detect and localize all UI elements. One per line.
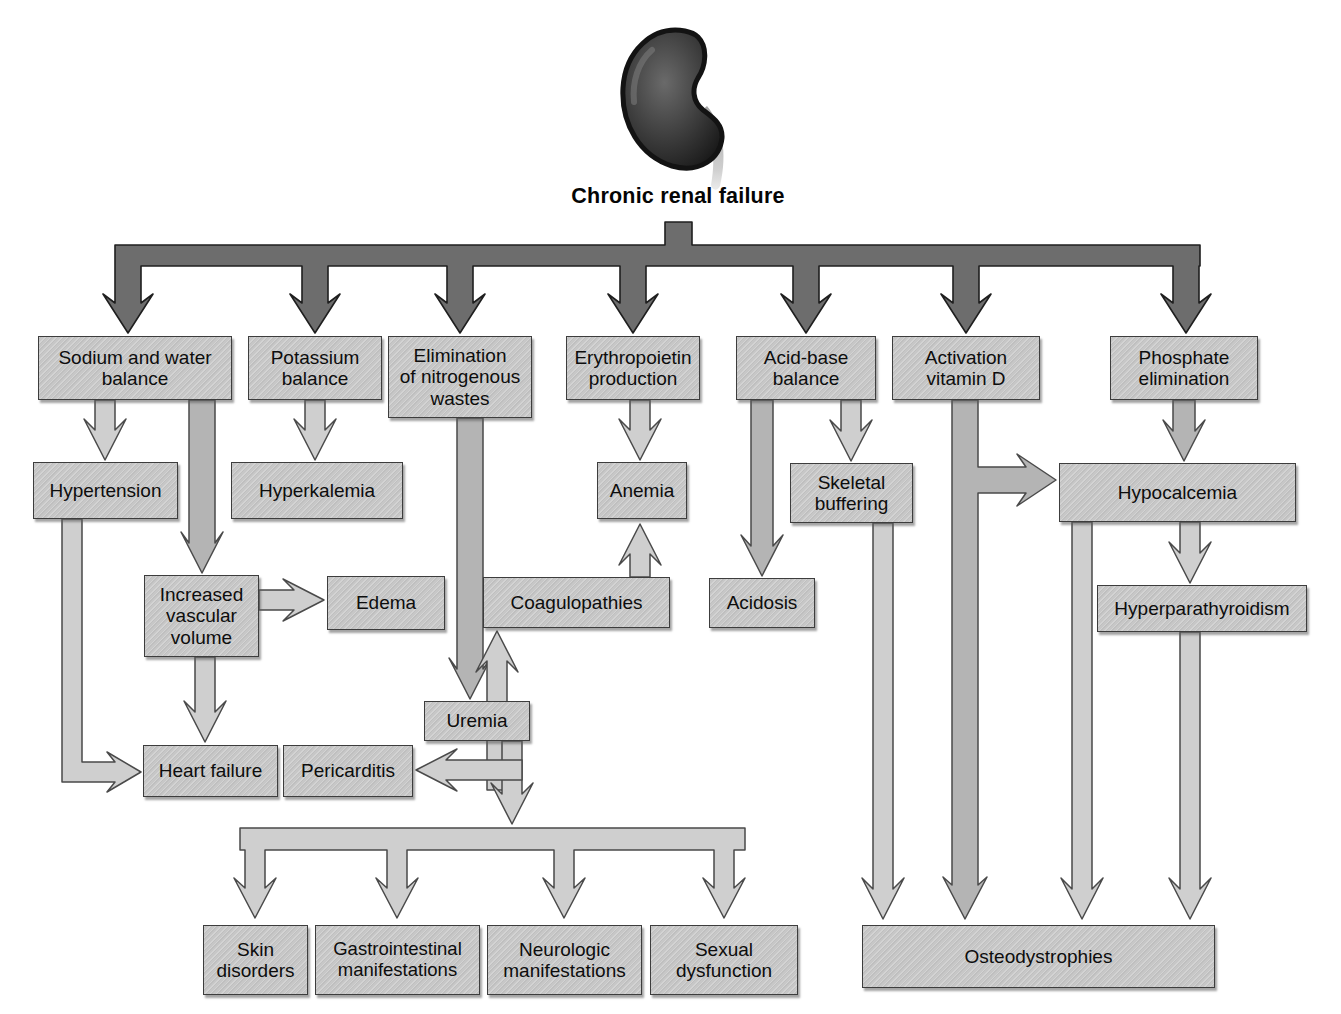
- node-sodium-water-balance: Sodium and water balance: [38, 336, 232, 400]
- node-hypocalcemia: Hypocalcemia: [1059, 463, 1296, 522]
- kidney-icon: [612, 24, 762, 194]
- node-skeletal-buffering: Skeletal buffering: [790, 463, 913, 523]
- node-pericarditis: Pericarditis: [283, 745, 413, 797]
- arrow-coagulopathies-to-anemia: [619, 524, 661, 577]
- arrow-ivv-to-edema: [259, 579, 324, 621]
- collector-to-bottom-boxes: [234, 828, 745, 918]
- main-distribution-bar: [103, 222, 1211, 333]
- arrow-potassium-to-hyperkalemia: [294, 400, 336, 460]
- node-gastrointestinal-manifestations: Gastrointestinal manifestations: [315, 925, 480, 995]
- arrow-sodium-to-hypertension: [84, 400, 126, 460]
- node-acidosis: Acidosis: [709, 578, 815, 628]
- arrow-acid-base-to-skeletal-buffering: [830, 400, 872, 461]
- chronic-renal-failure-diagram: Chronic renal failure Sodium and water b…: [0, 0, 1341, 1014]
- arrow-erythropoietin-to-anemia: [619, 400, 661, 460]
- node-potassium-balance: Potassium balance: [248, 336, 382, 400]
- arrow-hypocalcemia-to-osteodystrophies: [1061, 522, 1103, 919]
- arrow-acid-base-to-acidosis: [741, 400, 783, 576]
- arrow-phosphate-to-hypocalcemia: [1163, 400, 1205, 461]
- node-neurologic-manifestations: Neurologic manifestations: [487, 925, 642, 995]
- node-hyperkalemia: Hyperkalemia: [231, 462, 403, 519]
- arrow-hyperparathyroidism-to-osteodystrophies: [1169, 632, 1211, 919]
- node-edema: Edema: [327, 576, 445, 630]
- node-coagulopathies: Coagulopathies: [483, 577, 670, 628]
- node-hyperparathyroidism: Hyperparathyroidism: [1097, 585, 1307, 632]
- node-phosphate-elimination: Phosphate elimination: [1110, 336, 1258, 400]
- node-skin-disorders: Skin disorders: [203, 925, 308, 995]
- arrow-skeletal-buffering-to-osteodystrophies: [862, 523, 904, 919]
- node-heart-failure: Heart failure: [143, 745, 278, 797]
- arrow-activation-vitamin-d-to-hypocalcemia-and-osteodystrophies: [943, 400, 1056, 919]
- node-erythropoietin-production: Erythropoietin production: [566, 336, 700, 400]
- node-sexual-dysfunction: Sexual dysfunction: [650, 925, 798, 995]
- node-activation-vitamin-d: Activation vitamin D: [892, 336, 1040, 400]
- node-hypertension: Hypertension: [33, 462, 178, 519]
- arrow-ivv-to-heart-failure: [184, 657, 226, 742]
- node-elimination-nitrogenous-wastes: Elimination of nitrogenous wastes: [388, 336, 532, 418]
- page-title: Chronic renal failure: [528, 184, 828, 209]
- arrow-hypertension-to-heart-failure: [62, 519, 141, 792]
- arrow-hypocalcemia-to-hyperparathyroidism: [1169, 522, 1211, 583]
- node-anemia: Anemia: [597, 462, 687, 519]
- node-increased-vascular-volume: Increased vascular volume: [144, 575, 259, 657]
- node-acid-base-balance: Acid-base balance: [736, 336, 876, 400]
- node-osteodystrophies: Osteodystrophies: [862, 925, 1215, 988]
- arrow-sodium-to-increased-vascular-volume: [181, 400, 223, 573]
- node-uremia: Uremia: [424, 701, 530, 741]
